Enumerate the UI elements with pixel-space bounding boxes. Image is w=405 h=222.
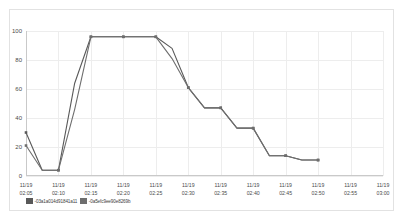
y-axis-tick-label: 80 [15,57,22,63]
x-tick-date: 11/19 [377,181,390,189]
data-point-marker [57,169,60,172]
legend-entry[interactable]: -03a1a014d91841a11 [26,198,77,204]
x-tick-time: 03:00 [377,189,390,197]
legend-entry[interactable]: -0a5efc9ee90e8269b [80,198,130,204]
y-axis-tick-label: 0 [19,173,22,179]
x-tick-date: 11/19 [182,181,195,189]
x-axis-tick-label: 11/1902:50 [312,181,325,197]
data-point-marker [219,107,222,110]
x-axis-tick-label: 11/1902:35 [214,181,227,197]
legend-label: -0a5efc9ee90e8269b [89,199,131,204]
x-tick-time: 02:45 [279,189,292,197]
x-tick-date: 11/19 [149,181,162,189]
x-tick-date: 11/19 [312,181,325,189]
x-tick-time: 02:50 [312,189,325,197]
x-tick-date: 11/19 [214,181,227,189]
x-tick-time: 02:25 [149,189,162,197]
x-tick-time: 02:35 [214,189,227,197]
x-tick-date: 11/19 [20,181,33,189]
plot-area: 020406080100 11/1902:0511/1902:1011/1902… [26,31,383,176]
y-axis-tick-label: 20 [15,144,22,150]
x-axis-tick-label: 11/1902:55 [344,181,357,197]
data-point-marker [284,154,287,157]
x-axis-tick-label: 11/1902:45 [279,181,292,197]
x-axis-tick-label: 11/1902:40 [247,181,260,197]
x-tick-date: 11/19 [52,181,65,189]
x-tick-date: 11/19 [117,181,130,189]
data-point-marker [317,159,320,162]
data-point-marker [122,36,125,39]
x-tick-time: 02:05 [20,189,33,197]
x-axis-tick-label: 11/1902:15 [84,181,97,197]
gridline-horizontal [26,176,383,177]
x-tick-time: 02:10 [52,189,65,197]
data-point-marker [90,36,93,39]
chart-legend: -03a1a014d91841a11-0a5efc9ee90e8269b [26,198,130,204]
data-point-marker [155,36,158,39]
data-point-marker [25,144,28,147]
y-axis-tick-label: 100 [12,28,22,34]
legend-color-swatch [26,198,33,204]
series-line [26,37,318,170]
x-tick-date: 11/19 [247,181,260,189]
x-tick-date: 11/19 [84,181,97,189]
series-plot [26,31,383,176]
x-tick-time: 02:40 [247,189,260,197]
data-point-marker [25,131,28,134]
x-axis-tick-label: 11/1902:05 [20,181,33,197]
y-axis-tick-label: 40 [15,115,22,121]
data-point-marker [187,86,190,89]
x-axis-tick-label: 11/1902:10 [52,181,65,197]
x-axis-tick-label: 11/1902:20 [117,181,130,197]
chart-card: 020406080100 11/1902:0511/1902:1011/1902… [9,9,394,211]
x-axis-tick-label: 11/1902:30 [182,181,195,197]
x-tick-time: 02:30 [182,189,195,197]
data-point-marker [252,127,255,130]
legend-color-swatch [80,198,87,204]
y-axis-tick-label: 60 [15,86,22,92]
x-tick-time: 02:55 [344,189,357,197]
x-tick-date: 11/19 [344,181,357,189]
x-tick-time: 02:15 [84,189,97,197]
legend-label: -03a1a014d91841a11 [35,199,78,204]
series-line [26,37,318,170]
x-axis-tick-label: 11/1903:00 [377,181,390,197]
gridline-vertical [383,31,384,176]
x-axis-tick-label: 11/1902:25 [149,181,162,197]
x-tick-time: 02:20 [117,189,130,197]
x-tick-date: 11/19 [279,181,292,189]
